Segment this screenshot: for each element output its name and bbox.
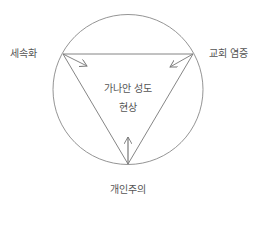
label-center-phenomenon: 가나안 성도 현상 (100, 79, 156, 117)
label-individualism: 개인주의 (110, 185, 146, 195)
label-secularization: 세속화 (10, 49, 37, 59)
center-label-line2: 현상 (100, 98, 156, 117)
label-church-fatigue: 교회 염증 (209, 49, 248, 59)
center-label-line1: 가나안 성도 (100, 79, 156, 98)
